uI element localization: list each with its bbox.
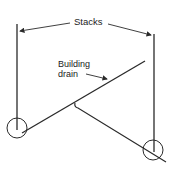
- plumbing-diagram: Stacks Building drain: [0, 0, 175, 174]
- building-drain-line: [22, 61, 145, 133]
- stacks-label: Stacks: [74, 17, 103, 27]
- stacks-arrow-right: [108, 24, 151, 35]
- building-drain-label-line2: drain: [58, 69, 78, 79]
- building-drain-label-line1: Building: [58, 59, 90, 69]
- drain-branch-line: [75, 103, 166, 162]
- stacks-arrow-left: [20, 23, 70, 31]
- building-drain-arrow: [86, 74, 107, 79]
